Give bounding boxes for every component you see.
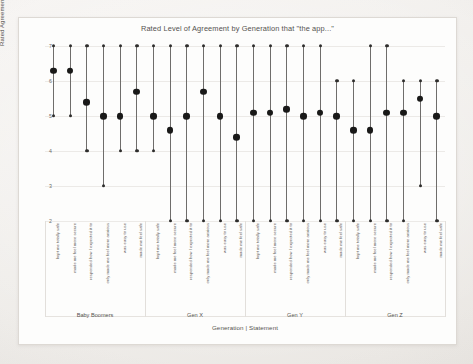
range-cap-marker xyxy=(119,149,122,152)
mean-marker[interactable] xyxy=(67,67,74,74)
mean-marker[interactable] xyxy=(200,88,207,95)
mean-marker[interactable] xyxy=(267,109,274,116)
range-stem xyxy=(386,46,387,221)
x-axis-statement-label: made me feel safe xyxy=(438,223,443,257)
range-cap-marker xyxy=(185,44,188,47)
range-cap-marker xyxy=(385,44,388,47)
group-separator xyxy=(145,221,146,317)
range-stem xyxy=(436,81,437,221)
mean-marker[interactable] xyxy=(283,106,290,113)
mean-marker[interactable] xyxy=(400,109,407,116)
mean-marker[interactable] xyxy=(100,113,107,120)
range-cap-marker xyxy=(52,44,55,47)
x-axis-zone: kept me totally safemade me feel more se… xyxy=(45,221,445,333)
x-axis-statement-label: responded how I expected it to xyxy=(88,223,93,280)
x-axis-statement-label: only made me feel more anxious xyxy=(305,223,310,283)
mean-marker[interactable] xyxy=(383,109,390,116)
range-cap-marker xyxy=(285,44,288,47)
mean-marker[interactable] xyxy=(250,109,257,116)
mean-marker[interactable] xyxy=(117,113,124,120)
y-axis-tick-label: 6 xyxy=(49,78,52,84)
group-separator xyxy=(345,221,346,317)
x-axis-statement-label: made me feel more secure xyxy=(272,223,277,273)
range-cap-marker xyxy=(85,44,88,47)
range-cap-marker xyxy=(219,44,222,47)
x-axis-statement-label: made me feel more secure xyxy=(172,223,177,273)
range-cap-marker xyxy=(102,184,105,187)
range-cap-marker xyxy=(169,44,172,47)
range-cap-marker xyxy=(369,44,372,47)
range-cap-marker xyxy=(419,184,422,187)
range-cap-marker xyxy=(69,114,72,117)
range-stem xyxy=(186,46,187,221)
mean-marker[interactable] xyxy=(183,113,190,120)
range-cap-marker xyxy=(152,44,155,47)
mean-marker[interactable] xyxy=(167,127,174,134)
mean-marker[interactable] xyxy=(367,127,374,134)
range-stem xyxy=(403,81,404,221)
range-cap-marker xyxy=(319,44,322,47)
range-cap-marker xyxy=(102,44,105,47)
group-separator xyxy=(445,221,446,317)
x-axis-statement-label: made me feel safe xyxy=(338,223,343,257)
x-axis-statement-label: kept me totally safe xyxy=(255,223,260,259)
range-cap-marker xyxy=(402,79,405,82)
mean-marker[interactable] xyxy=(217,113,224,120)
x-axis-statement-label: only made me feel more anxious xyxy=(205,223,210,283)
x-axis-statement-label: made me feel more secure xyxy=(372,223,377,273)
range-cap-marker xyxy=(252,44,255,47)
range-cap-marker xyxy=(69,44,72,47)
mean-marker[interactable] xyxy=(333,113,340,120)
mean-marker[interactable] xyxy=(150,113,157,120)
x-axis-statement-label: made me feel safe xyxy=(238,223,243,257)
range-stem xyxy=(253,46,254,221)
range-cap-marker xyxy=(269,44,272,47)
x-axis-group-label: Gen Z xyxy=(387,312,403,318)
range-stem xyxy=(270,46,271,221)
x-axis-statement-label: made me feel more secure xyxy=(72,223,77,273)
range-stem xyxy=(303,46,304,221)
range-stem xyxy=(220,46,221,221)
mean-marker[interactable] xyxy=(83,99,90,106)
plot-area xyxy=(45,46,445,221)
mean-marker[interactable] xyxy=(433,113,440,120)
group-separator xyxy=(245,221,246,317)
x-axis-statement-label: was easy to use xyxy=(222,223,227,253)
y-axis-tick-label: 5 xyxy=(49,113,52,119)
mean-marker[interactable] xyxy=(350,127,357,134)
mean-marker[interactable] xyxy=(300,113,307,120)
y-axis-tick-label: 4 xyxy=(49,148,52,154)
range-cap-marker xyxy=(202,44,205,47)
range-cap-marker xyxy=(85,149,88,152)
mean-marker[interactable] xyxy=(133,88,140,95)
range-stem xyxy=(53,46,54,116)
x-axis-statement-label: was easy to use xyxy=(322,223,327,253)
gridline xyxy=(45,81,445,82)
x-axis-group-label: Gen X xyxy=(187,312,203,318)
range-cap-marker xyxy=(135,44,138,47)
range-cap-marker xyxy=(152,149,155,152)
range-stem xyxy=(320,46,321,221)
x-axis-statement-label: responded how I expected it to xyxy=(188,223,193,280)
x-axis-group-label: Baby Boomers xyxy=(77,312,114,318)
mean-marker[interactable] xyxy=(417,95,424,102)
x-axis-statement-label: was easy to use xyxy=(122,223,127,253)
range-stem xyxy=(286,46,287,221)
range-stem xyxy=(153,46,154,151)
range-stem xyxy=(70,46,71,116)
y-axis-tick-label: 3 xyxy=(49,183,52,189)
mean-marker[interactable] xyxy=(50,67,57,74)
mean-marker[interactable] xyxy=(317,109,324,116)
x-axis-statement-label: was easy to use xyxy=(422,223,427,253)
x-axis-statement-label: only made me feel more anxious xyxy=(405,223,410,283)
chart-card: Rated Level of Agreement by Generation t… xyxy=(18,17,457,345)
x-axis-statement-label: only made me feel more anxious xyxy=(105,223,110,283)
x-axis-group-label: Gen Y xyxy=(287,312,303,318)
x-axis-title: Generation | Statement xyxy=(45,324,445,331)
y-axis-tick-label: 7 xyxy=(49,43,52,49)
range-cap-marker xyxy=(135,149,138,152)
range-stem xyxy=(120,46,121,151)
x-axis-statement-label: made me feel safe xyxy=(138,223,143,257)
range-stem xyxy=(370,46,371,221)
mean-marker[interactable] xyxy=(233,134,240,141)
